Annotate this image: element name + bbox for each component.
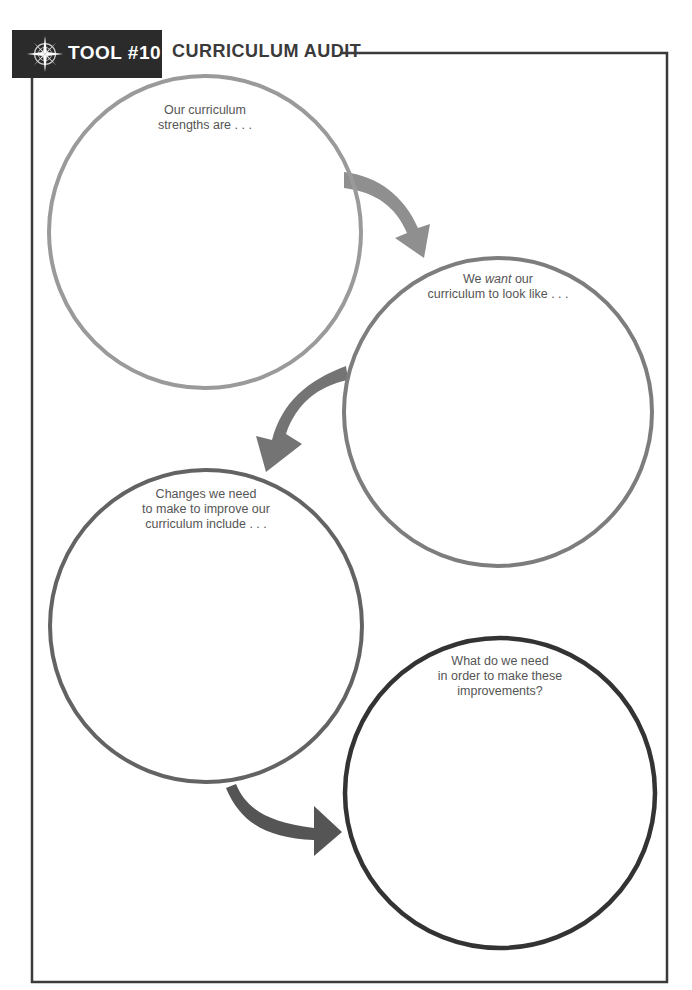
prompt-changes: Changes we need to make to improve our c…: [116, 487, 296, 532]
prompt-line: Our curriculum: [130, 103, 280, 118]
prompt-line: strengths are . . .: [130, 118, 280, 133]
prompt-line: What do we need: [410, 654, 590, 669]
arrow-icon-3-to-4: [226, 784, 342, 856]
arrow-icon-2-to-3: [256, 366, 348, 472]
prompt-line: Changes we need: [116, 487, 296, 502]
circle-want: [344, 258, 652, 566]
audit-cycle-diagram: [0, 0, 692, 990]
prompt-want: We want our curriculum to look like . . …: [408, 272, 588, 302]
prompt-line: improvements?: [410, 684, 590, 699]
prompt-text: our: [511, 272, 533, 286]
arrow-icon-1-to-2: [344, 172, 430, 258]
prompt-line: curriculum include . . .: [116, 517, 296, 532]
prompt-text: We: [463, 272, 485, 286]
prompt-line: We want our: [408, 272, 588, 287]
prompt-needs: What do we need in order to make these i…: [410, 654, 590, 699]
prompt-line: to make to improve our: [116, 502, 296, 517]
prompt-line: curriculum to look like . . .: [408, 287, 588, 302]
prompt-strengths: Our curriculum strengths are . . .: [130, 103, 280, 133]
prompt-emphasis: want: [485, 272, 511, 286]
prompt-line: in order to make these: [410, 669, 590, 684]
